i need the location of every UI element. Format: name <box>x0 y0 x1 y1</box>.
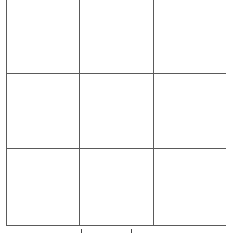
grid-cell-r0-c2 <box>154 0 226 73</box>
grid-cell-r0-c1 <box>80 0 153 73</box>
grid-line-vertical-2 <box>153 0 154 226</box>
grid-cell-r2-c1 <box>80 149 153 225</box>
grid-cell-r1-c1 <box>80 74 153 148</box>
grid-line-horizontal-2 <box>6 148 226 149</box>
grid-cell-r1-c2 <box>154 74 226 148</box>
grid-line-vertical-1 <box>79 0 80 226</box>
grid-cell-r1-c0 <box>7 74 79 148</box>
three-by-three-grid <box>6 0 226 226</box>
grid-cell-r0-c0 <box>7 0 79 73</box>
grid-cell-r2-c0 <box>7 149 79 225</box>
grid-line-horizontal-1 <box>6 73 226 74</box>
tick-mark-1 <box>81 229 82 233</box>
tick-mark-2 <box>131 229 132 233</box>
grid-cell-r2-c2 <box>154 149 226 225</box>
grid-line-horizontal-bottom <box>6 225 226 226</box>
grid-line-vertical-left <box>6 0 7 226</box>
